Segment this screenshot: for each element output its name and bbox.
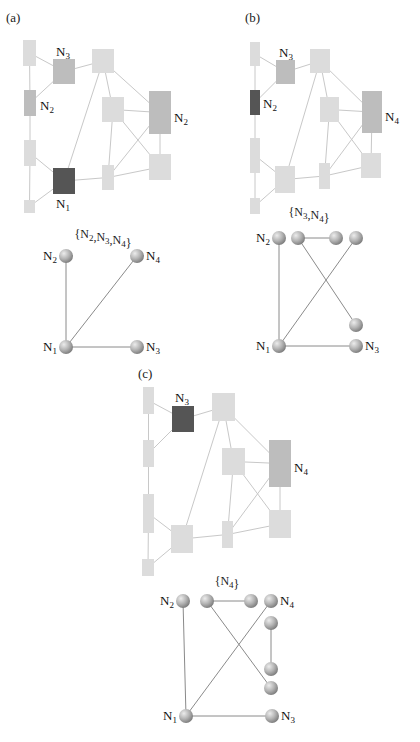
layout-nodes: N3N2N4: [250, 42, 399, 214]
layout-node-medium: [276, 60, 295, 84]
graph-node-sphere: [179, 709, 193, 723]
graph-node-sphere: [59, 340, 73, 354]
layout-node-dark: [53, 168, 75, 194]
layout-node-light: [250, 198, 260, 214]
panel-label: (b): [245, 10, 260, 25]
conflict-graph: {N3,N4}N2N1N3: [256, 205, 379, 355]
graph-node-sphere: [244, 594, 258, 608]
graph-node-sphere: [200, 594, 214, 608]
layout-node-light: [222, 521, 233, 548]
graph-node-label: N3: [365, 338, 379, 355]
conflict-graph: {N4}N2N4N1N3: [160, 574, 295, 725]
layout-node-light: [143, 387, 154, 414]
panel-label: (c): [138, 366, 152, 381]
layout-nodes: N3N2N2N1: [23, 40, 188, 213]
graph-node-sphere: [130, 340, 144, 354]
layout-node-dark: [250, 90, 260, 115]
graph-node-label: N2: [43, 248, 57, 265]
layout-node-light: [320, 97, 339, 122]
node-label: N2: [40, 98, 54, 115]
layout-node-light: [142, 559, 154, 576]
layout-node-medium: [149, 91, 171, 134]
layout-node-light: [149, 154, 171, 180]
layout-node-light: [171, 525, 193, 553]
set-label: {N4}: [215, 574, 240, 591]
layout-node-medium: [53, 59, 75, 84]
graph-node-sphere: [291, 231, 305, 245]
graph-edge: [183, 601, 186, 716]
graph-node-sphere: [349, 318, 363, 332]
set-label: {N3,N4}: [289, 205, 330, 225]
graph-node-sphere: [264, 662, 278, 676]
graph-node-label: N4: [280, 593, 294, 610]
layout-node-light: [92, 49, 114, 73]
layout-edges: [148, 401, 280, 568]
layout-node-light: [102, 97, 124, 122]
layout-nodes: N3N4: [142, 387, 308, 576]
set-label: {N2,N3,N4}: [74, 227, 131, 250]
graph-node-sphere: [265, 709, 279, 723]
panels-group: (a)N3N2N2N1{N2,N3,N4}N2N4N1N3(b)N3N2N4{N…: [6, 10, 399, 725]
node-label: N3: [279, 45, 293, 62]
layout-edges: [30, 53, 161, 207]
layout-node-light: [23, 40, 36, 66]
panel-a: (a)N3N2N2N1{N2,N3,N4}N2N4N1N3: [6, 10, 188, 356]
graph-edge: [186, 601, 271, 716]
graph-node-label: N2: [256, 230, 270, 247]
layout-node-light: [222, 448, 245, 475]
node-label: N3: [56, 44, 70, 61]
graph-node-sphere: [264, 616, 278, 630]
graph-node-label: N3: [146, 339, 160, 356]
graph-node-sphere: [349, 339, 363, 353]
layout-node-light: [361, 153, 381, 178]
node-label: N2: [263, 96, 277, 113]
graph-node-label: N1: [43, 339, 57, 356]
panel-c: (c)N3N4{N4}N2N4N1N3: [138, 366, 308, 725]
node-label: N4: [294, 460, 308, 477]
layout-node-light: [275, 166, 295, 193]
graph-node-sphere: [130, 249, 144, 263]
graph-node-sphere: [349, 231, 363, 245]
graph-node-sphere: [264, 681, 278, 695]
graph-node-sphere: [176, 594, 190, 608]
node-label: N3: [175, 390, 189, 407]
node-label: N4: [385, 109, 399, 126]
node-label: N1: [56, 196, 70, 213]
layout-node-light: [250, 138, 260, 173]
graph-edge: [279, 238, 356, 346]
node-label: N2: [174, 110, 188, 127]
graph-node-label: N1: [163, 708, 177, 725]
panel-b: (b)N3N2N4{N3,N4}N2N1N3: [245, 10, 399, 355]
graph-node-label: N2: [160, 593, 174, 610]
panel-label: (a): [6, 10, 20, 25]
graph-node-label: N4: [146, 248, 160, 265]
layout-node-light: [319, 163, 330, 189]
conflict-graph: {N2,N3,N4}N2N4N1N3: [43, 227, 160, 356]
layout-node-light: [143, 440, 154, 467]
layout-node-light: [269, 510, 291, 538]
graph-node-sphere: [59, 249, 73, 263]
graph-edge: [66, 256, 137, 347]
layout-node-light: [250, 42, 260, 66]
layout-node-light: [143, 494, 154, 533]
graph-node-label: N1: [256, 338, 270, 355]
graph-node-sphere: [272, 231, 286, 245]
layout-node-light: [24, 140, 36, 166]
graph-node-sphere: [329, 231, 343, 245]
graph-node-label: N3: [281, 708, 295, 725]
layout-node-medium: [362, 91, 382, 133]
layout-node-medium: [24, 90, 36, 116]
layout-node-light: [212, 393, 235, 421]
layout-edges: [255, 54, 372, 206]
layout-node-light: [102, 165, 114, 190]
layout-node-light: [24, 200, 35, 213]
figure-canvas: (a)N3N2N2N1{N2,N3,N4}N2N4N1N3(b)N3N2N4{N…: [0, 0, 420, 742]
graph-node-sphere: [272, 339, 286, 353]
graph-node-sphere: [264, 594, 278, 608]
layout-node-light: [310, 49, 330, 73]
layout-node-dark: [172, 406, 194, 432]
layout-node-medium: [269, 440, 291, 487]
